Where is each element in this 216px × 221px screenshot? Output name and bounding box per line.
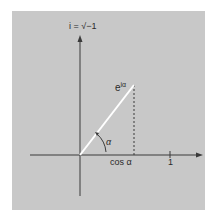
vector-label: eiα <box>115 81 126 93</box>
x-tick-label: 1 <box>168 158 173 167</box>
vector-label-exponent: iα <box>121 81 127 88</box>
x-projection-label: cos α <box>110 158 132 167</box>
x-axis-arrow-icon <box>196 153 203 158</box>
y-axis-label: i = √−1 <box>69 22 96 31</box>
angle-label: α <box>106 138 111 147</box>
diagram-canvas <box>0 0 216 221</box>
y-axis-arrow-icon <box>78 35 83 42</box>
angle-arc <box>97 134 106 152</box>
